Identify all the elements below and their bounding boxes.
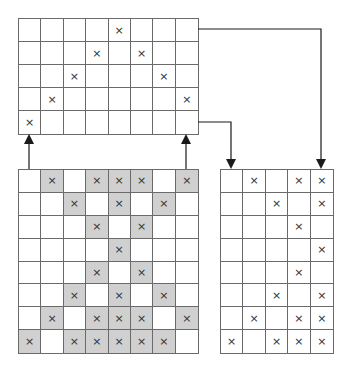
arrow-top-row0-to-right-col4 xyxy=(198,29,321,167)
connector-arrows xyxy=(0,0,349,372)
arrow-top-row4-to-right-col0 xyxy=(198,122,231,167)
